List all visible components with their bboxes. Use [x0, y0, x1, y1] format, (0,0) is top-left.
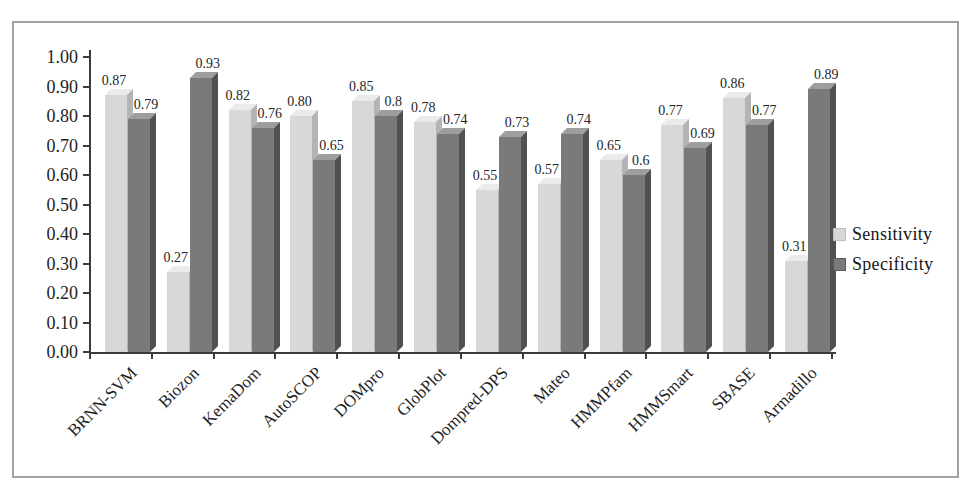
bar-sensitivity-kemadom	[229, 110, 251, 352]
sensitivity-swatch-icon	[833, 228, 846, 241]
x-tick	[522, 352, 524, 359]
y-tick	[83, 292, 90, 294]
x-tick	[707, 352, 709, 359]
x-tick	[274, 352, 276, 359]
y-tick-label: 0.00	[28, 342, 78, 362]
legend-item-sensitivity: Sensitivity	[833, 224, 933, 245]
value-label-specificity-hmmpfam: 0.6	[618, 153, 664, 169]
y-tick-label: 0.30	[28, 254, 78, 274]
y-tick-label: 0.60	[28, 165, 78, 185]
value-label-sensitivity-sbase: 0.86	[709, 76, 755, 92]
bar-sensitivity-sbase	[723, 98, 745, 352]
value-label-sensitivity-hmmsmart: 0.77	[647, 103, 693, 119]
value-label-sensitivity-dompro: 0.85	[338, 79, 384, 95]
bar-sensitivity-mateo	[538, 184, 560, 352]
y-tick	[83, 56, 90, 58]
bar-sensitivity-hmmpfam	[600, 160, 622, 352]
x-tick	[151, 352, 153, 359]
y-axis-line	[89, 50, 91, 353]
value-label-specificity-dompred-dps: 0.73	[494, 115, 540, 131]
y-tick	[83, 204, 90, 206]
x-tick	[460, 352, 462, 359]
y-tick-label: 0.50	[28, 195, 78, 215]
value-label-sensitivity-dompred-dps: 0.55	[462, 168, 508, 184]
y-tick-label: 1.00	[28, 47, 78, 67]
value-label-sensitivity-mateo: 0.57	[524, 162, 570, 178]
y-tick	[83, 115, 90, 117]
y-tick	[83, 322, 90, 324]
legend-label-sensitivity: Sensitivity	[852, 224, 932, 245]
x-tick	[213, 352, 215, 359]
y-tick-label: 0.10	[28, 313, 78, 333]
y-tick-label: 0.80	[28, 106, 78, 126]
value-label-specificity-armadillo: 0.89	[803, 67, 849, 83]
value-label-sensitivity-autoscop: 0.80	[276, 94, 322, 110]
y-tick	[83, 263, 90, 265]
bar-sensitivity-globplot	[414, 122, 436, 352]
legend: Sensitivity Specificity	[833, 224, 933, 275]
y-tick-label: 0.40	[28, 224, 78, 244]
bar-sensitivity-biozon	[167, 272, 189, 352]
bar-specificity-hmmsmart	[684, 148, 706, 352]
x-tick	[89, 352, 91, 359]
x-tick	[336, 352, 338, 359]
value-label-specificity-sbase: 0.77	[741, 103, 787, 119]
bar-specificity-kemadom	[252, 128, 274, 352]
y-tick-label: 0.70	[28, 136, 78, 156]
bar-specificity-dompro	[375, 116, 397, 352]
x-tick	[584, 352, 586, 359]
y-tick	[83, 145, 90, 147]
bar-sensitivity-dompro	[352, 101, 374, 352]
value-label-specificity-globplot: 0.74	[432, 112, 478, 128]
bar-sensitivity-dompred-dps	[476, 190, 498, 352]
value-label-sensitivity-armadillo: 0.31	[771, 239, 817, 255]
value-label-specificity-hmmsmart: 0.69	[679, 126, 725, 142]
y-tick	[83, 86, 90, 88]
bar-sensitivity-armadillo	[785, 261, 807, 352]
y-tick	[83, 233, 90, 235]
value-label-sensitivity-brnn-svm: 0.87	[91, 73, 137, 89]
legend-item-specificity: Specificity	[833, 254, 933, 275]
x-tick	[645, 352, 647, 359]
value-label-specificity-biozon: 0.93	[185, 56, 231, 72]
bar-chart: 1.000.900.800.700.600.500.400.300.200.10…	[0, 0, 973, 492]
value-label-sensitivity-biozon: 0.27	[153, 250, 199, 266]
bar-sensitivity-hmmsmart	[661, 125, 683, 352]
x-tick	[831, 352, 833, 359]
x-tick	[398, 352, 400, 359]
y-tick	[83, 174, 90, 176]
value-label-sensitivity-hmmpfam: 0.65	[586, 138, 632, 154]
specificity-swatch-icon	[833, 258, 846, 271]
value-label-specificity-brnn-svm: 0.79	[123, 97, 169, 113]
bar-specificity-sbase	[746, 125, 768, 352]
x-axis-line	[89, 352, 836, 354]
bar-specificity-hmmpfam	[623, 175, 645, 352]
bar-specificity-biozon	[190, 78, 212, 352]
bar-specificity-armadillo	[808, 89, 830, 352]
value-label-specificity-mateo: 0.74	[556, 112, 602, 128]
bar-specificity-autoscop	[313, 160, 335, 352]
x-tick	[769, 352, 771, 359]
value-label-sensitivity-kemadom: 0.82	[215, 88, 261, 104]
y-tick-label: 0.20	[28, 283, 78, 303]
y-tick-label: 0.90	[28, 77, 78, 97]
bar-sensitivity-brnn-svm	[105, 95, 127, 352]
legend-label-specificity: Specificity	[852, 254, 933, 275]
bar-specificity-brnn-svm	[128, 119, 150, 352]
value-label-specificity-autoscop: 0.65	[308, 138, 354, 154]
bar-specificity-globplot	[437, 134, 459, 352]
